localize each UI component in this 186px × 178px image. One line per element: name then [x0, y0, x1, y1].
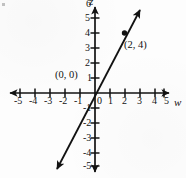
plotted-line-z-equals-2w — [57, 10, 140, 169]
plotted-point-2-4 — [122, 30, 127, 35]
x-tick-label-neg2: -2 — [59, 96, 67, 106]
x-tick-label-5: 5 — [164, 96, 169, 106]
y-tick-label-4: 4 — [85, 28, 90, 38]
y-tick-label-3: 3 — [85, 43, 90, 53]
x-tick-label-neg1: -1 — [74, 96, 82, 106]
horizontal-axis-label-w: w — [174, 97, 181, 108]
x-tick-label-1: 1 — [108, 96, 113, 106]
y-tick-label-1: 1 — [87, 73, 92, 83]
x-tick-label-neg5: -5 — [14, 96, 22, 106]
y-tick-label-neg4: -4 — [83, 148, 91, 158]
origin-point-label: (0, 0) — [55, 70, 78, 81]
y-tick-label-2: 2 — [85, 58, 90, 68]
origin-tick-label: 0 — [97, 96, 102, 106]
x-tick-label-neg4: -4 — [29, 96, 37, 106]
y-tick-label-neg5: -5 — [83, 161, 91, 171]
vertical-axis-label-z: z — [89, 0, 93, 7]
y-tick-label-neg2: -2 — [83, 118, 91, 128]
x-tick-label-4: 4 — [152, 96, 157, 106]
coordinate-graph-figure: -5 -4 -3 -2 -1 0 1 2 3 4 5 6 5 4 3 2 1 -… — [0, 0, 186, 178]
x-tick-label-2: 2 — [122, 96, 127, 106]
y-tick-label-neg3: -3 — [83, 133, 91, 143]
y-tick-label-neg1: -1 — [83, 103, 91, 113]
plotted-point-label: (2, 4) — [124, 40, 147, 51]
y-tick-label-5: 5 — [85, 13, 90, 23]
x-tick-label-neg3: -3 — [44, 96, 52, 106]
coordinate-plane-svg — [0, 0, 186, 178]
x-tick-label-3: 3 — [137, 96, 142, 106]
